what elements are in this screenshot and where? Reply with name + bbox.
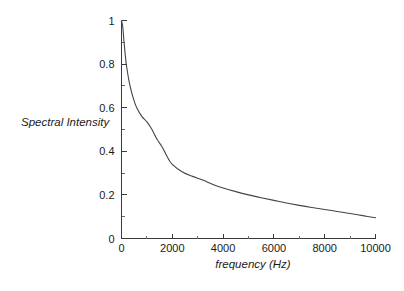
x-tick-label: 2000 <box>160 242 184 254</box>
y-tick-label: 1 <box>108 15 114 27</box>
x-tick-label: 4000 <box>211 242 235 254</box>
y-tick-label: 0.8 <box>99 58 114 70</box>
x-tick-label: 6000 <box>262 242 286 254</box>
x-tick-label: 8000 <box>312 242 336 254</box>
y-tick-label: 0.6 <box>99 102 114 114</box>
chart-background <box>0 0 404 291</box>
spectral-intensity-chart: 020004000600080001000000.20.40.60.81Spec… <box>0 0 404 291</box>
chart-svg: 020004000600080001000000.20.40.60.81Spec… <box>0 0 404 291</box>
y-tick-label: 0.4 <box>99 145 114 157</box>
y-axis-title: Spectral Intensity <box>21 116 110 128</box>
y-tick-label: 0 <box>108 233 114 245</box>
x-tick-label: 0 <box>118 242 124 254</box>
x-tick-label: 10000 <box>360 242 391 254</box>
x-axis-title: frequency (Hz) <box>215 258 291 270</box>
y-tick-label: 0.2 <box>99 189 114 201</box>
